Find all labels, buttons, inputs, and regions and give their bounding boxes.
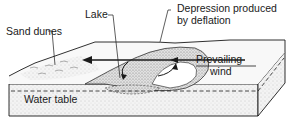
deflation-block-diagram xyxy=(0,0,288,130)
label-lake: Lake xyxy=(85,9,108,20)
label-depression-line1: Depression produced xyxy=(177,3,277,14)
label-water-table: Water table xyxy=(24,94,77,105)
label-depression-line2: by deflation xyxy=(177,15,231,26)
label-prevailing: Prevailing xyxy=(196,54,242,65)
label-wind: wind xyxy=(210,66,232,77)
label-sand-dunes: Sand dunes xyxy=(6,26,62,37)
